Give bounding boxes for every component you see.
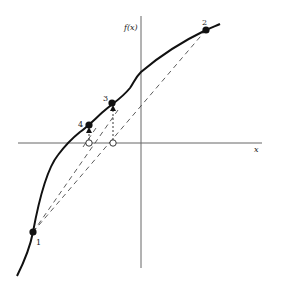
point-3-label: 3 xyxy=(103,94,108,103)
open-circle-x4 xyxy=(110,140,116,146)
point-4-label: 4 xyxy=(78,120,83,129)
x-axis-label: x xyxy=(254,145,259,154)
secant-method-diagram: f(x) x 1 2 3 4 xyxy=(0,0,281,290)
point-4 xyxy=(85,121,92,128)
secant-lines xyxy=(33,30,206,232)
secant-1-2 xyxy=(33,30,206,232)
open-circle-x3 xyxy=(86,140,92,146)
point-3 xyxy=(108,99,115,106)
point-1 xyxy=(29,228,36,235)
point-1-label: 1 xyxy=(36,238,41,247)
point-2 xyxy=(202,26,209,33)
function-curve xyxy=(17,24,220,276)
secant-1-3 xyxy=(33,110,118,232)
y-axis-label: f(x) xyxy=(123,23,138,32)
point-2-label: 2 xyxy=(202,18,207,27)
